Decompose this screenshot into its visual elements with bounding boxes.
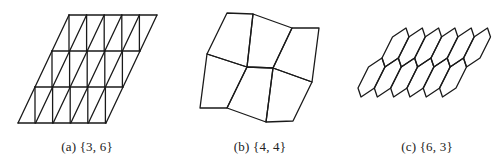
hexagon-face xyxy=(391,58,418,97)
caption-a: (a) {3, 6} xyxy=(61,139,113,155)
hexagon-face xyxy=(431,28,458,67)
hexagon-face xyxy=(464,28,491,67)
hexagon-face xyxy=(415,28,442,67)
hexagon-face xyxy=(447,28,474,67)
hexagon-face xyxy=(407,58,434,97)
hexagon-face xyxy=(398,28,425,67)
hexagon-face xyxy=(358,58,385,97)
tiling-figure: (a) {3, 6} (b) {4, 4} (c) {6, 3} xyxy=(0,0,503,165)
hexagon-face xyxy=(382,28,409,67)
caption-b: (b) {4, 4} xyxy=(234,139,286,155)
hexagon-face xyxy=(374,58,401,97)
hexagon-face xyxy=(423,58,450,97)
caption-c: (c) {6, 3} xyxy=(401,139,453,155)
hexagon-face xyxy=(440,58,467,97)
